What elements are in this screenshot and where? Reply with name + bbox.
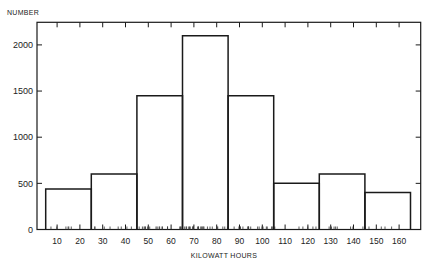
y-tick-label: 500 — [18, 179, 33, 189]
x-tick-label: 140 — [346, 236, 360, 246]
x-tick-label: 50 — [144, 236, 154, 246]
x-tick-label: 10 — [52, 236, 62, 246]
y-tick-label: 0 — [28, 225, 33, 235]
x-tick-label: 30 — [98, 236, 108, 246]
y-tick-label: 2000 — [13, 40, 33, 50]
x-tick-label: 40 — [121, 236, 131, 246]
histogram-bar-3 — [137, 96, 183, 230]
x-tick-label: 160 — [392, 236, 406, 246]
histogram-bar-2 — [91, 174, 137, 229]
x-tick-label: 130 — [324, 236, 338, 246]
histogram-bar-1 — [46, 189, 92, 230]
histogram-bar-8 — [365, 193, 411, 230]
y-tick-label: 1500 — [13, 86, 33, 96]
histogram-bar-5 — [228, 96, 274, 230]
x-axis-title: KILOWATT HOURS — [191, 252, 257, 259]
x-tick-label: 70 — [189, 236, 199, 246]
x-tick-label: 20 — [75, 236, 85, 246]
y-tick-label: 1000 — [13, 132, 33, 142]
histogram-bar-4 — [183, 36, 229, 230]
x-tick-label: 120 — [301, 236, 315, 246]
x-tick-label: 100 — [255, 236, 269, 246]
y-axis-title: NUMBER — [7, 9, 39, 16]
y-axis-ticks: 0500100015002000 — [13, 40, 421, 235]
histogram-chart: NUMBER 0500100015002000 1020304050607080… — [0, 0, 425, 264]
histogram-bar-7 — [319, 174, 365, 229]
x-tick-label: 60 — [166, 236, 176, 246]
x-axis-ticks: 102030405060708090100110120130140150160 — [52, 22, 406, 246]
x-tick-label: 80 — [212, 236, 222, 246]
x-tick-label: 150 — [369, 236, 383, 246]
histogram-bar-6 — [274, 183, 320, 229]
x-tick-label: 90 — [235, 236, 245, 246]
histogram-bars — [46, 36, 411, 230]
x-tick-label: 110 — [278, 236, 292, 246]
